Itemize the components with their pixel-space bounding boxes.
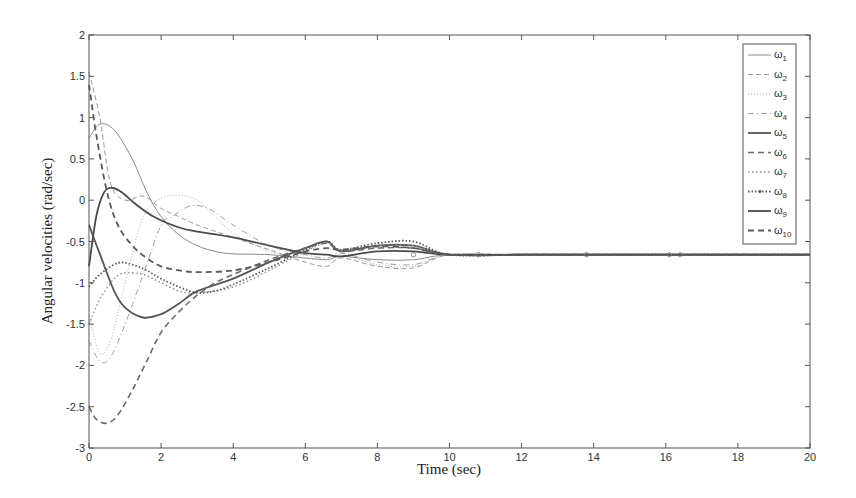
y-tick-label: 2: [79, 29, 85, 41]
x-tick-label: 8: [374, 451, 380, 463]
legend: ω1ω2ω3ω4ω5ω6ω7ω8ω9ω10: [743, 44, 796, 244]
y-tick-label: -2.5: [66, 401, 85, 413]
y-axis-title: Angular velocities (rad/sec): [39, 158, 56, 325]
y-tick-label: 0: [79, 194, 85, 206]
y-tick-label: -1: [75, 277, 85, 289]
y-tick-label: 0.5: [70, 153, 85, 165]
y-tick-label: 1: [79, 112, 85, 124]
y-tick-label: -3: [75, 442, 85, 454]
legend-marker: [759, 190, 762, 193]
y-tick-label: 1.5: [70, 70, 85, 82]
x-tick-label: 2: [158, 451, 164, 463]
x-tick-label: 18: [732, 451, 744, 463]
x-tick-label: 12: [515, 451, 527, 463]
x-tick-label: 4: [230, 451, 236, 463]
x-tick-label: 20: [804, 451, 816, 463]
x-tick-label: 14: [588, 451, 600, 463]
y-tick-label: -1.5: [66, 318, 85, 330]
chart-canvas: 02468101214161820 -3-2.5-2-1.5-1-0.500.5…: [0, 0, 856, 498]
x-axis-title: Time (sec): [417, 461, 481, 478]
x-tick-label: 0: [86, 451, 92, 463]
y-tick-label: -0.5: [66, 236, 85, 248]
y-tick-label: -2: [75, 359, 85, 371]
x-tick-label: 6: [302, 451, 308, 463]
x-tick-label: 16: [660, 451, 672, 463]
